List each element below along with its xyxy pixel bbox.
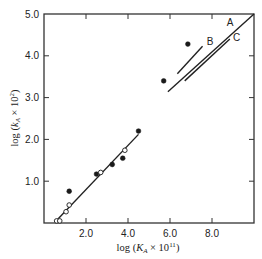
filled-point (185, 42, 190, 47)
x-tick-label: 6.0 (163, 228, 177, 239)
filled-point (136, 129, 141, 134)
fit-lines (57, 14, 254, 220)
filled-point (110, 162, 115, 167)
x-tick-label: 4.0 (121, 228, 135, 239)
x-tick-label: 8.0 (205, 228, 219, 239)
filled-point (161, 78, 166, 83)
line-label-B: B (207, 36, 214, 47)
open-point (64, 209, 69, 214)
line-label-C: C (233, 32, 240, 43)
y-axis-label: log (kA × 102) (8, 89, 22, 147)
y-tick-label: 5.0 (25, 9, 39, 20)
line-A (168, 14, 254, 92)
y-tick-label: 3.0 (25, 92, 39, 103)
open-point (98, 170, 103, 175)
open-point (123, 148, 128, 153)
y-tick-label: 1.0 (25, 176, 39, 187)
line-B (177, 46, 202, 74)
data-points (54, 42, 190, 224)
chart: 2.04.06.08.01.02.03.04.05.0 ABC log (KA … (0, 0, 262, 259)
line-label-A: A (227, 17, 234, 28)
open-point (67, 203, 72, 208)
open-point (57, 219, 62, 224)
x-tick-label: 2.0 (79, 228, 93, 239)
y-tick-label: 4.0 (25, 50, 39, 61)
x-axis-label: log (KA × 1011) (117, 241, 180, 255)
y-tick-label: 2.0 (25, 134, 39, 145)
filled-point (120, 156, 125, 161)
filled-point (67, 189, 72, 194)
